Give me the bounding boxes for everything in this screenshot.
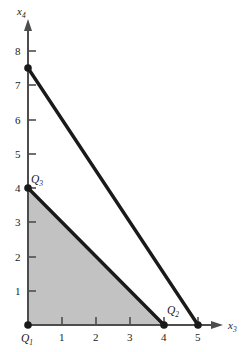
x-axis-title-sub: 3 bbox=[233, 325, 237, 334]
vertex-dot-y75 bbox=[24, 64, 32, 72]
point-label-q2: Q2 bbox=[167, 305, 179, 319]
y-tick-label-8: 8 bbox=[15, 46, 21, 57]
linear-programming-figure: x4 x3 1 2 3 4 5 6 7 8 1 2 3 4 5 Q1 Q2 Q3 bbox=[0, 0, 245, 352]
x-axis-title: x3 bbox=[228, 320, 237, 334]
x-tick-label-1: 1 bbox=[59, 332, 65, 343]
x-tick-label-4: 4 bbox=[161, 332, 167, 343]
point-label-q3: Q3 bbox=[31, 174, 43, 188]
y-tick-label-3: 3 bbox=[15, 217, 21, 228]
point-label-q1-sub: 1 bbox=[29, 338, 33, 347]
x-axis-arrowhead bbox=[211, 321, 223, 329]
y-tick-label-4: 4 bbox=[15, 183, 21, 194]
x-tick-label-5: 5 bbox=[195, 332, 201, 343]
vertex-dot-x5 bbox=[194, 321, 202, 329]
y-axis-arrowhead bbox=[24, 19, 32, 31]
vertex-dot-q1 bbox=[24, 321, 32, 329]
point-label-q1: Q1 bbox=[21, 333, 33, 347]
y-tick-label-7: 7 bbox=[15, 80, 21, 91]
point-label-q2-sub: 2 bbox=[175, 310, 179, 319]
x-tick-label-2: 2 bbox=[93, 332, 99, 343]
y-tick-label-5: 5 bbox=[15, 149, 21, 160]
y-tick-label-6: 6 bbox=[15, 115, 21, 126]
y-tick-label-2: 2 bbox=[15, 252, 21, 263]
y-axis-title: x4 bbox=[17, 6, 26, 20]
point-label-q3-sub: 3 bbox=[39, 179, 43, 188]
x-tick-label-3: 3 bbox=[127, 332, 133, 343]
y-tick-label-1: 1 bbox=[15, 286, 21, 297]
vertex-dot-q2 bbox=[160, 321, 168, 329]
y-axis-title-sub: 4 bbox=[22, 11, 26, 20]
